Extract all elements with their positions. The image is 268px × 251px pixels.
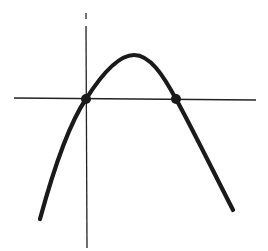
parabola-curve — [40, 55, 233, 219]
parabola-diagram — [0, 0, 268, 251]
root-point-right — [171, 94, 181, 104]
y-axis — [86, 26, 87, 248]
x-axis — [14, 98, 256, 100]
root-point-left — [81, 94, 91, 104]
